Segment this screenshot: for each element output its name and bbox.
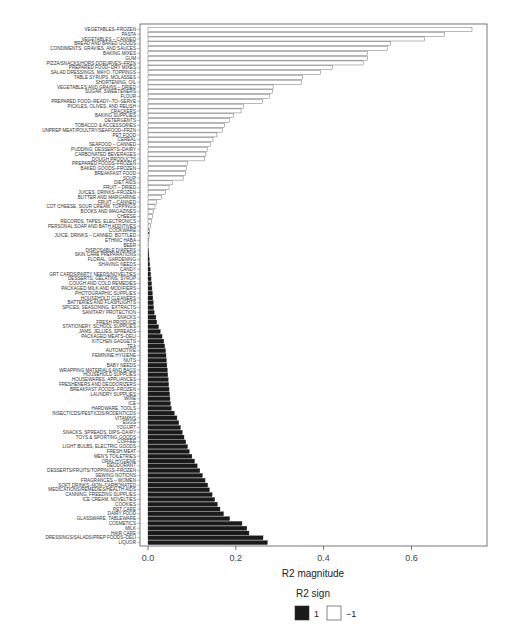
bar (148, 497, 215, 501)
bar (148, 166, 187, 170)
bar (148, 142, 211, 146)
bar (148, 368, 167, 372)
bar (148, 253, 149, 257)
bar (148, 435, 184, 439)
legend-swatch-negative (327, 606, 341, 620)
bar (148, 334, 162, 338)
bar (148, 382, 169, 386)
bar (148, 483, 208, 487)
r2-bar-chart: VEGETABLES–FROZENPASTAVEGETABLES – CANNE… (0, 0, 508, 633)
bar (148, 229, 150, 233)
x-axis: 0.00.20.40.6 (142, 546, 418, 563)
legend-label-negative: −1 (346, 609, 356, 619)
bar (148, 301, 153, 305)
bar (148, 133, 217, 137)
bar (148, 416, 177, 420)
legend-label-positive: 1 (314, 609, 319, 619)
bar (148, 291, 152, 295)
bar (148, 262, 150, 266)
x-tick-label: 0.4 (317, 553, 330, 563)
bar (148, 421, 179, 425)
legend-swatch-positive (295, 606, 309, 620)
bar (148, 80, 302, 84)
bar (148, 440, 186, 444)
bar (148, 512, 224, 516)
bar (148, 248, 149, 252)
bar (148, 147, 207, 151)
x-tick-label: 0.6 (405, 553, 418, 563)
bar (148, 339, 164, 343)
bar (148, 51, 368, 55)
bar (148, 90, 272, 94)
bar (148, 363, 167, 367)
bars-group (148, 27, 472, 544)
bar (148, 238, 149, 242)
bar (148, 27, 472, 31)
bar (148, 66, 333, 70)
x-axis-title: R2 magnitude (282, 568, 345, 579)
bar (148, 286, 152, 290)
bar (148, 406, 171, 410)
x-tick-label: 0.0 (142, 553, 155, 563)
bar (148, 536, 263, 540)
bar (148, 190, 166, 194)
bar (148, 349, 166, 353)
bar (148, 488, 209, 492)
bar (148, 219, 152, 223)
category-label: LIQUOR (118, 540, 136, 545)
bar (148, 310, 154, 314)
bar (148, 459, 195, 463)
bar (148, 32, 445, 36)
bar (148, 358, 166, 362)
bar (148, 162, 188, 166)
bar (148, 95, 270, 99)
bar (148, 99, 263, 103)
bar (148, 181, 172, 185)
bar (148, 37, 425, 41)
bar (148, 315, 156, 319)
bar (148, 114, 234, 118)
bar (148, 56, 368, 60)
bar (148, 296, 153, 300)
bar (148, 61, 363, 65)
bar (148, 397, 170, 401)
bar (148, 272, 151, 276)
bar (148, 330, 160, 334)
bar (148, 258, 149, 262)
bar (148, 109, 241, 113)
bar (148, 123, 225, 127)
bar (148, 464, 197, 468)
bar (148, 171, 186, 175)
bar (148, 306, 154, 310)
bar (148, 47, 388, 51)
bar (148, 521, 242, 525)
bar (148, 267, 150, 271)
bar (148, 493, 212, 497)
bar (148, 200, 157, 204)
bar (148, 449, 189, 453)
legend-title: R2 sign (296, 588, 330, 599)
bar (148, 541, 267, 545)
bar (148, 176, 183, 180)
bar (148, 243, 149, 247)
bar (148, 469, 200, 473)
bar (148, 42, 391, 46)
bar (148, 234, 149, 238)
bar (148, 186, 169, 190)
bar (148, 478, 205, 482)
bar (148, 387, 169, 391)
bar (148, 157, 204, 161)
bar (148, 392, 170, 396)
bar (148, 517, 230, 521)
bar (148, 282, 152, 286)
bar (148, 205, 155, 209)
bar (148, 224, 151, 228)
category-labels: VEGETABLES–FROZENPASTAVEGETABLES – CANNE… (42, 27, 140, 545)
bar (148, 71, 321, 75)
bar (148, 430, 182, 434)
bar (148, 411, 174, 415)
bar (148, 344, 165, 348)
bar (148, 401, 170, 405)
bar (148, 277, 151, 281)
bar (148, 320, 157, 324)
